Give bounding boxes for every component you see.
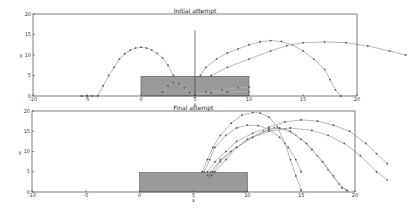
y-tick-label: 20	[24, 108, 30, 114]
subplot-1: -10-50510152005101520xyInitial attempt	[20, 7, 407, 108]
x-axis-label: x	[192, 197, 195, 203]
y-tick-label: 10	[25, 52, 31, 58]
y-axis-label: y	[19, 149, 22, 156]
chart-title: Final attempt	[174, 104, 214, 112]
y-tick-label: 15	[24, 128, 30, 134]
y-tick-label: 20	[25, 11, 31, 17]
x-tick-label: 20	[352, 192, 358, 198]
y-tick-label: 0	[27, 189, 30, 195]
obstacle-box	[140, 173, 248, 192]
x-tick-label: 10	[244, 192, 250, 198]
y-tick-label: 0	[28, 93, 31, 99]
series-trajectory-2	[203, 124, 302, 172]
x-tick-label: 20	[354, 96, 360, 102]
series-trajectory-3	[210, 41, 406, 76]
x-tick-label: 0	[139, 96, 142, 102]
chart-title: Initial attempt	[174, 7, 217, 15]
x-tick-label: 15	[300, 96, 306, 102]
x-tick-label: 10	[246, 96, 252, 102]
y-tick-label: 5	[27, 168, 30, 174]
chart-figure: -10-50510152005101520xyInitial attempt*/…	[0, 0, 419, 212]
y-tick-label: 15	[25, 31, 31, 37]
x-tick-label: 15	[298, 192, 304, 198]
x-tick-label: 0	[138, 192, 141, 198]
x-tick-label: -5	[83, 192, 88, 198]
y-tick-label: 5	[28, 72, 31, 78]
series-trajectory-3	[207, 119, 389, 173]
annotation-label: */*	[206, 173, 213, 179]
y-axis-label: y	[20, 52, 23, 59]
y-tick-label: 10	[24, 148, 30, 154]
x-tick-label: -5	[85, 96, 90, 102]
subplot-2: */*-10-50510152005101520xyFinal attempt	[19, 104, 389, 204]
